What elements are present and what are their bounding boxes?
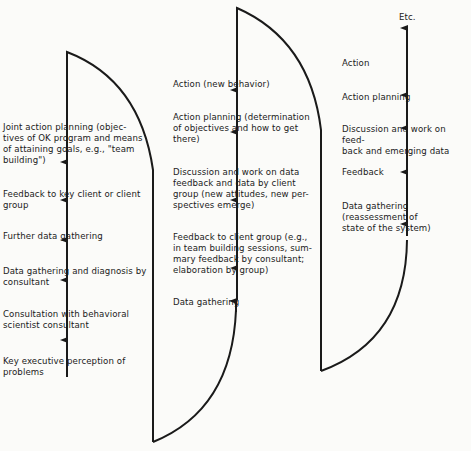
step-discussion-work-data: Discussion and work on data feedback and…	[173, 167, 309, 211]
cycle-1-outline	[67, 52, 153, 442]
step-feedback-key-client: Feedback to key client or client group	[3, 189, 140, 211]
step-action-new-behavior: Action (new behavior)	[173, 79, 270, 90]
step-data-gathering-2: Data gathering	[173, 297, 239, 308]
step-feedback-client-group: Feedback to client group (e.g., in team …	[173, 232, 312, 276]
cycle-1-to-2-curve	[153, 310, 236, 442]
step-etc: Etc.	[399, 12, 416, 23]
step-key-executive-perception: Key executive perception of problems	[3, 356, 125, 378]
cycle-2-to-3-curve	[321, 240, 407, 371]
step-data-gathering-diagnosis: Data gathering and diagnosis by consulta…	[3, 266, 147, 288]
step-action-3: Action	[342, 58, 370, 69]
step-consultation: Consultation with behavioral scientist c…	[3, 309, 129, 331]
step-discussion-feedback-emerging: Discussion and work on feed- back and em…	[342, 124, 471, 157]
step-joint-action-planning: Joint action planning (objec- tives of O…	[3, 122, 143, 166]
step-further-data-gathering: Further data gathering	[3, 231, 103, 242]
step-action-planning-2: Action planning (determination of object…	[173, 112, 310, 145]
step-data-gathering-reassessment: Data gathering (reassessment of state of…	[342, 201, 471, 234]
step-feedback-3: Feedback	[342, 167, 384, 178]
step-action-planning-3: Action planning	[342, 92, 410, 103]
